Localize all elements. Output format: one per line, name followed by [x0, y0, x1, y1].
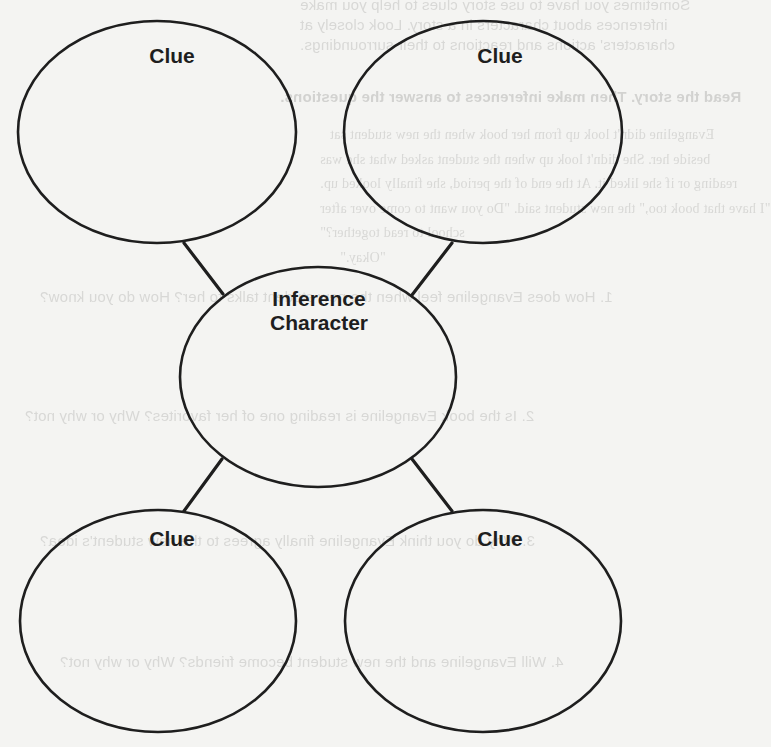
clue-label-bottom-left: Clue — [149, 527, 195, 550]
connector-bottom-left — [184, 459, 222, 511]
center-label-line-1: Inference — [270, 287, 368, 311]
center-label-line-2: Character — [270, 311, 368, 335]
connector-bottom-right — [412, 459, 452, 511]
clue-label-top-left: Clue — [149, 44, 195, 67]
center-label: Inference Character — [270, 287, 368, 335]
clue-label-top-right: Clue — [477, 44, 523, 67]
clue-label-bottom-right: Clue — [477, 527, 523, 550]
connector-top-right — [412, 243, 452, 295]
connector-top-left — [184, 243, 223, 294]
